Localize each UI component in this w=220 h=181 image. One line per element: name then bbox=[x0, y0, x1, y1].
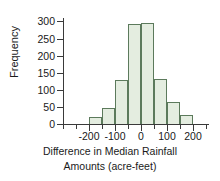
histogram-bar bbox=[128, 24, 141, 124]
x-axis-label-line-2: Amounts (acre-feet) bbox=[0, 159, 220, 174]
y-axis-label: Frequency bbox=[8, 12, 20, 92]
x-axis-tick bbox=[206, 125, 207, 129]
x-axis-tick-label: 200 bbox=[176, 131, 210, 142]
histogram-bar bbox=[63, 123, 76, 124]
y-axis-tick-label: 100 bbox=[29, 85, 55, 96]
x-axis-tick bbox=[180, 125, 181, 129]
histogram-bar bbox=[180, 115, 193, 124]
x-axis-tick bbox=[102, 125, 103, 129]
histogram-bar bbox=[102, 108, 115, 124]
y-axis-tick bbox=[57, 39, 63, 40]
y-axis-tick bbox=[57, 73, 63, 74]
y-axis-tick-label: 250 bbox=[29, 34, 55, 45]
y-axis-tick bbox=[57, 107, 63, 108]
histogram-bar bbox=[154, 79, 167, 124]
histogram-bar bbox=[193, 123, 206, 124]
y-axis-tick bbox=[57, 21, 63, 22]
histogram-bars bbox=[63, 18, 209, 124]
x-axis-tick bbox=[76, 125, 77, 129]
x-axis-label-line-1: Difference in Median Rainfall bbox=[0, 144, 220, 159]
y-axis-tick-label: 300 bbox=[29, 16, 55, 27]
histogram-bar bbox=[167, 102, 180, 124]
histogram-bar bbox=[141, 23, 154, 124]
y-axis-tick-label: 150 bbox=[29, 68, 55, 79]
histogram-figure: Frequency 050100150200250300 Difference … bbox=[0, 0, 220, 181]
histogram-bar bbox=[76, 123, 89, 124]
x-axis-tick bbox=[63, 125, 64, 129]
y-axis-tick bbox=[57, 90, 63, 91]
y-axis-tick-label: 200 bbox=[29, 51, 55, 62]
y-axis-tick-label: 0 bbox=[29, 119, 55, 130]
y-axis-tick bbox=[57, 56, 63, 57]
x-axis-tick bbox=[154, 125, 155, 129]
x-axis-line bbox=[63, 124, 209, 125]
y-axis-tick-label: 50 bbox=[29, 102, 55, 113]
x-axis-tick bbox=[128, 125, 129, 129]
histogram-bar bbox=[89, 117, 102, 124]
histogram-bar bbox=[115, 80, 128, 124]
x-axis-label: Difference in Median Rainfall Amounts (a… bbox=[0, 144, 220, 174]
